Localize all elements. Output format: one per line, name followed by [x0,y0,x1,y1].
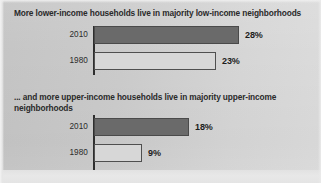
panel-top-title: More lower-income households live in maj… [14,8,310,19]
panel-top-bar-2010 [94,26,239,44]
chart-figure: More lower-income households live in maj… [0,0,321,183]
panel-top-category-label-1980: 1980 [69,52,88,70]
panel-top-bar-1980 [94,52,216,70]
panel-top-bar-row-2010: 2010 28% [0,26,321,44]
panel-bottom-value-label-2010: 18% [195,118,213,136]
panel-top-value-label-1980: 23% [222,52,240,70]
panel-bottom-bar-row-1980: 1980 9% [0,144,321,162]
panel-bottom-bar-1980 [94,144,142,162]
panel-bottom-bar-row-2010: 2010 18% [0,118,321,136]
chart-panel-bottom: ... and more upper-income households liv… [0,88,321,183]
panel-bottom-plot-area: 2010 18% 1980 9% [0,115,321,171]
panel-bottom-value-label-1980: 9% [148,144,161,162]
panel-top-bar-row-1980: 1980 23% [0,52,321,70]
panel-bottom-title: ... and more upper-income households liv… [14,92,310,113]
panel-bottom-bar-2010 [94,118,189,136]
panel-bottom-category-label-1980: 1980 [69,144,88,162]
panel-top-category-label-2010: 2010 [69,26,88,44]
panel-bottom-category-label-2010: 2010 [69,118,88,136]
panel-top-plot-area: 2010 28% 1980 23% [0,26,321,76]
panel-top-value-label-2010: 28% [245,26,263,44]
chart-panel-top: More lower-income households live in maj… [0,0,321,88]
